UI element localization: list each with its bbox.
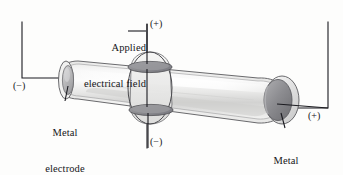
left-electrode-sheen: [64, 68, 70, 82]
electrode-right-line-1: Metal: [255, 155, 317, 167]
figure-container: Applied electrical field Metal electrode…: [0, 0, 343, 175]
applied-field-line-1: Applied: [72, 42, 146, 54]
polarity-marker-top: (+): [150, 18, 162, 29]
wire-left-negative: [22, 22, 63, 78]
label-applied-electrical-field: Applied electrical field: [72, 18, 146, 114]
label-metal-electrode-left: Metal electrode: [36, 103, 94, 175]
right-electrode-disc: [264, 80, 292, 121]
polarity-marker-left: (−): [13, 80, 25, 91]
polarity-marker-right: (+): [308, 110, 320, 121]
electrode-left-line-1: Metal: [36, 127, 94, 139]
polarity-marker-bottom: (−): [150, 136, 162, 147]
applied-field-line-2: electrical field: [72, 78, 146, 90]
label-metal-electrode-right: Metal electrode: [255, 131, 317, 175]
electrode-left-line-2: electrode: [36, 163, 94, 175]
